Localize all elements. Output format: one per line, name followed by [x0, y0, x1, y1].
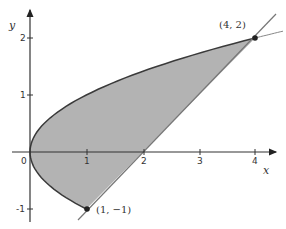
y-tick-label-2: 2	[20, 33, 26, 43]
region-diagram: 0 1 2 3 4 2 1 -1 x y (4, 2) (1, −1)	[0, 0, 286, 229]
x-axis-label: x	[263, 164, 270, 177]
point-label-4-2: (4, 2)	[219, 19, 246, 30]
x-tick-label-0: 0	[21, 156, 27, 166]
x-tick-label-4: 4	[252, 156, 258, 166]
point-1-neg1	[84, 206, 90, 212]
point-label-1-neg1: (1, −1)	[96, 204, 131, 215]
parabola-extension	[255, 31, 283, 38]
y-axis-label: y	[8, 19, 16, 32]
x-tick-label-1: 1	[84, 156, 90, 166]
shaded-region-fill	[30, 38, 255, 209]
y-tick-label-neg1: -1	[16, 204, 25, 214]
x-tick-label-3: 3	[197, 156, 203, 166]
y-tick-label-1: 1	[20, 90, 26, 100]
x-tick-label-2: 2	[141, 156, 147, 166]
point-4-2	[252, 35, 258, 41]
